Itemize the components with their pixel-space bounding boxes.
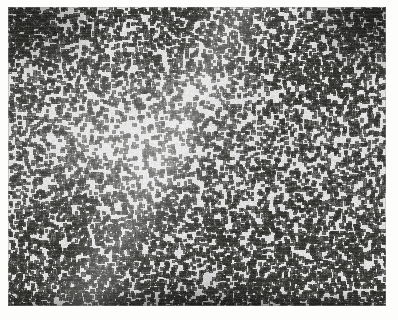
page-canvas — [0, 0, 398, 320]
micrograph-plate — [8, 7, 386, 306]
micrograph-stipple-field — [8, 7, 386, 306]
